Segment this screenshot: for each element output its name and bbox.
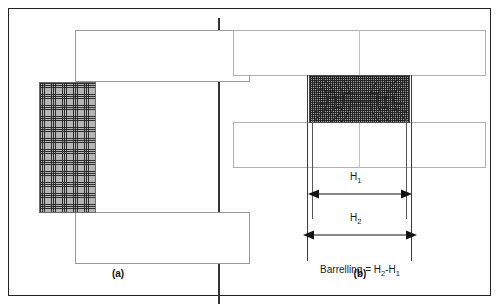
witness-line-right-inner: [406, 119, 407, 219]
witness-line-left-inner: [312, 119, 313, 219]
panel-b: H1 H2 Barrelling = H2-H1 (b): [220, 9, 500, 295]
panel-label-b: (b): [220, 268, 500, 279]
flow-lines-svg: [310, 76, 410, 123]
billet-mesh-panel-a: [39, 82, 96, 213]
figure-container: (a): [0, 0, 501, 306]
dimension-label-h2: H2: [350, 212, 362, 226]
panel-label-a: (a): [18, 268, 218, 279]
dimension-arrow-h2: [303, 228, 417, 242]
deformed-billet-mesh-panel-b: [309, 75, 410, 123]
dimension-label-h1: H1: [350, 171, 362, 185]
dimension-arrow-h1: [308, 187, 412, 201]
figure-frame: (a): [8, 8, 491, 296]
panel-a: (a): [18, 9, 218, 295]
dimension-label-h1-sub: 1: [357, 176, 361, 185]
dimension-label-h2-sub: 2: [357, 217, 361, 226]
